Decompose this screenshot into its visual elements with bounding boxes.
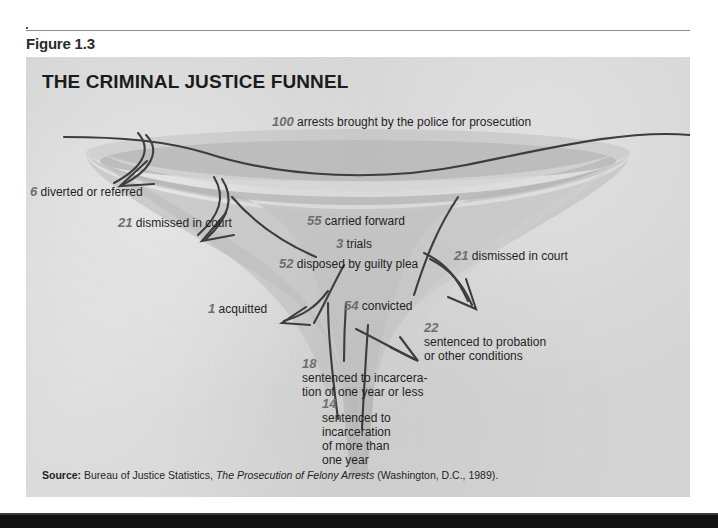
label-prison-long-line2: incarceration bbox=[322, 425, 452, 439]
label-prison-long-line1: sentenced to bbox=[322, 411, 452, 425]
label-prison-long: 14 sentenced to incarceration of more th… bbox=[322, 397, 452, 467]
label-carried-forward-text: carried forward bbox=[325, 214, 405, 228]
label-convicted-number: 54 bbox=[344, 298, 358, 313]
label-dismissed-right-text: dismissed in court bbox=[472, 249, 568, 263]
source-agency: Bureau of Justice Statistics, bbox=[81, 469, 216, 481]
label-jail-short: 18 sentenced to incarcera- tion of one y… bbox=[302, 357, 462, 399]
label-probation-line1: sentenced to probation bbox=[424, 335, 594, 349]
label-jail-short-line1: sentenced to incarcera- bbox=[302, 371, 462, 385]
figure-top-rule bbox=[26, 30, 690, 31]
label-diverted: 6 diverted or referred bbox=[30, 185, 143, 200]
label-diverted-text: diverted or referred bbox=[41, 185, 143, 199]
label-dismissed-left-text: dismissed in court bbox=[136, 216, 232, 230]
source-line: Source: Bureau of Justice Statistics, Th… bbox=[42, 469, 498, 481]
label-guilty-plea-number: 52 bbox=[279, 256, 293, 271]
label-trials-text: trials bbox=[347, 237, 372, 251]
label-prison-long-line4: one year bbox=[322, 453, 452, 467]
label-guilty-plea-text: disposed by guilty plea bbox=[297, 257, 418, 271]
label-diverted-number: 6 bbox=[30, 184, 37, 199]
label-guilty-plea: 52 disposed by guilty plea bbox=[279, 257, 418, 272]
figure-panel: THE CRIMINAL JUSTICE FUNNEL bbox=[26, 57, 690, 497]
figure-number-label: Figure 1.3 bbox=[26, 35, 95, 52]
label-acquitted: 1 acquitted bbox=[208, 302, 267, 317]
source-publication: The Prosecution of Felony Arrests bbox=[216, 469, 374, 481]
label-dismissed-left-number: 21 bbox=[118, 215, 132, 230]
bottom-band bbox=[0, 515, 718, 528]
label-dismissed-right-number: 21 bbox=[454, 248, 468, 263]
label-prison-long-number: 14 bbox=[322, 397, 452, 411]
figure-page: Figure 1.3 THE CRIMINAL JUSTICE FUNNEL bbox=[0, 0, 718, 528]
label-convicted-text: convicted bbox=[362, 299, 413, 313]
label-arrests-number: 100 bbox=[272, 114, 294, 129]
label-prison-long-line3: of more than bbox=[322, 439, 452, 453]
rule-dot bbox=[26, 27, 28, 29]
label-dismissed-left: 21 dismissed in court bbox=[118, 216, 232, 231]
source-suffix: (Washington, D.C., 1989). bbox=[374, 469, 498, 481]
label-arrests: 100 arrests brought by the police for pr… bbox=[272, 115, 531, 130]
label-convicted: 54 convicted bbox=[344, 299, 413, 314]
label-dismissed-right: 21 dismissed in court bbox=[454, 249, 568, 264]
label-carried-forward: 55 carried forward bbox=[307, 214, 405, 229]
label-probation-number: 22 bbox=[424, 321, 594, 335]
label-trials: 3 trials bbox=[336, 237, 372, 252]
label-carried-forward-number: 55 bbox=[307, 213, 321, 228]
label-trials-number: 3 bbox=[336, 236, 343, 251]
label-acquitted-text: acquitted bbox=[219, 302, 268, 316]
source-prefix: Source: bbox=[42, 469, 81, 481]
label-acquitted-number: 1 bbox=[208, 301, 215, 316]
label-jail-short-number: 18 bbox=[302, 357, 462, 371]
label-arrests-text: arrests brought by the police for prosec… bbox=[297, 115, 531, 129]
